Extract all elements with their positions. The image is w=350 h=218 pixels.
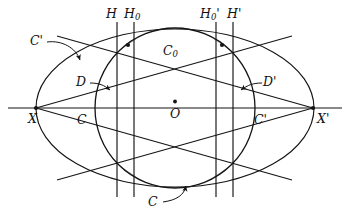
point-vertex-X-prime xyxy=(311,106,315,110)
label-H-prime: H' xyxy=(227,8,241,21)
label-H0-subscript: 0 xyxy=(135,12,140,22)
geometry-figure: H H0 H0' H' C' C0 D D' X X' C C' O xyxy=(0,0,350,218)
arrow-outer-ellipse xyxy=(47,42,80,60)
label-region-D: D xyxy=(76,76,86,89)
label-center-O: O xyxy=(170,108,180,121)
label-H: H xyxy=(106,8,117,21)
point-center-O xyxy=(173,100,177,104)
label-vertex-X: X xyxy=(28,113,37,126)
point-left-tangency xyxy=(126,43,130,47)
label-region-D-prime: D' xyxy=(263,76,276,89)
label-chord-C-prime: C' xyxy=(254,114,267,127)
label-H-prime-mark: ' xyxy=(238,6,241,21)
label-chord-C: C xyxy=(77,114,87,127)
label-H0-prime-subscript: 0 xyxy=(211,12,216,22)
label-H0: H0 xyxy=(124,8,140,21)
label-H0-prime-mark: ' xyxy=(216,6,219,21)
label-vertex-X-prime: X' xyxy=(317,113,329,126)
point-right-tangency xyxy=(220,43,224,47)
point-vertex-X xyxy=(34,106,38,110)
label-H0-prime: H0' xyxy=(200,8,220,21)
label-inner-conic-top: C0 xyxy=(163,45,178,58)
label-inner-conic-subscript: 0 xyxy=(173,49,178,59)
label-outer-conic: C' xyxy=(30,35,43,48)
label-inner-conic-bottom: C xyxy=(148,196,158,209)
